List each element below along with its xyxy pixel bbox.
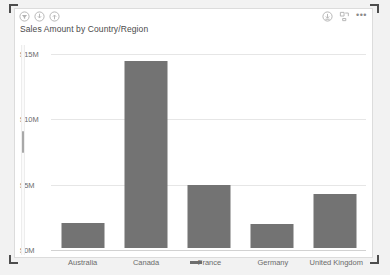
chart-plot-region: $0M$5M$10M$15M AustraliaCanadaFranceGerm…: [15, 36, 372, 257]
page-scrollbar[interactable]: [21, 45, 25, 255]
bar-column[interactable]: [51, 34, 114, 248]
bar[interactable]: [187, 185, 230, 248]
visual-header: •••: [15, 9, 372, 24]
visual-header-right-icons: •••: [322, 11, 367, 22]
x-axis-category-label[interactable]: Canada: [114, 258, 177, 267]
filter-icon[interactable]: [19, 11, 30, 22]
chart-bars: [51, 36, 366, 257]
bar[interactable]: [250, 224, 293, 248]
focus-mode-icon[interactable]: [339, 11, 350, 22]
bar[interactable]: [124, 61, 167, 248]
bar-column[interactable]: [303, 34, 366, 248]
expand-hierarchy-icon[interactable]: [322, 11, 333, 22]
drill-down-icon[interactable]: [34, 11, 45, 22]
bar-column[interactable]: [177, 34, 240, 248]
x-axis-category-label[interactable]: France: [178, 258, 241, 267]
bar[interactable]: [61, 223, 104, 248]
more-options-icon[interactable]: •••: [356, 12, 367, 22]
chart-visual-card[interactable]: ••• Sales Amount by Country/Region $0M$5…: [14, 8, 373, 258]
bar-column[interactable]: [114, 34, 177, 248]
page-scrollbar-thumb[interactable]: [22, 131, 24, 153]
x-axis-category-label[interactable]: United Kingdom: [305, 258, 368, 267]
bar-column[interactable]: [240, 34, 303, 248]
bar[interactable]: [313, 194, 356, 248]
visual-header-left-icons: [19, 11, 60, 22]
x-axis-category-label[interactable]: Australia: [51, 258, 114, 267]
x-axis-category-label[interactable]: Germany: [241, 258, 304, 267]
visual-title: Sales Amount by Country/Region: [20, 24, 148, 34]
drill-up-icon[interactable]: [49, 11, 60, 22]
